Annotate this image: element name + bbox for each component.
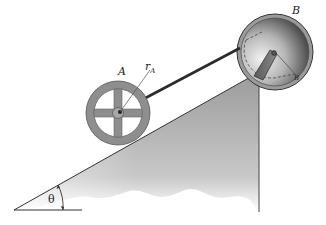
wheel-radius-label: rA <box>145 61 155 75</box>
wheel-radius-subscript: A <box>150 67 155 75</box>
diagram-stage: A rA B B θ <box>0 0 326 225</box>
angle-arrowhead-bottom <box>61 206 64 210</box>
spool-radius-label: B <box>294 71 299 82</box>
wheel-a-label: A <box>118 66 126 77</box>
angle-theta-label: θ <box>48 194 55 205</box>
spool-b-label: B <box>292 5 300 16</box>
mechanics-diagram <box>0 0 326 225</box>
spool-axle <box>272 51 277 56</box>
wheel-a <box>86 70 150 145</box>
spool-radius-subscript: B <box>294 74 299 82</box>
